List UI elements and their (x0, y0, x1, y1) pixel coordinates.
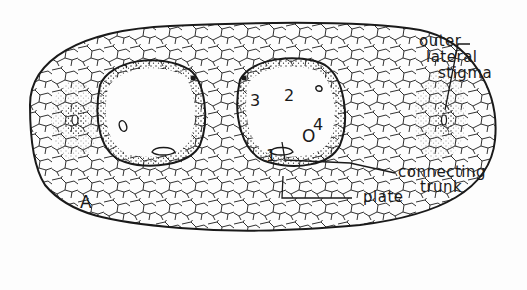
left-outer-lateral-stigma (64, 104, 86, 136)
panel-label: A (80, 195, 92, 210)
label-lateral: lateral (426, 50, 478, 65)
label-outer: outer (419, 34, 461, 49)
right-outer-lateral-stigma (435, 100, 455, 136)
label-trunk: trunk (420, 180, 462, 195)
label-stigma: stigma (438, 66, 492, 81)
number-2: 2 (284, 88, 294, 104)
number-3: 3 (250, 93, 260, 109)
opening-o-right: O (302, 128, 315, 144)
number-1: 1 (266, 148, 276, 164)
diagram-figure: 3 2 4 1 O outer lateral stigma connectin… (0, 0, 527, 290)
label-plate: plate (363, 190, 404, 205)
right-chamber (237, 58, 345, 166)
left-chamber (97, 60, 205, 165)
